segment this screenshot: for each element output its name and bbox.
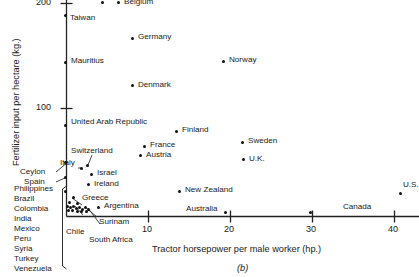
point-label-norway: Norway bbox=[229, 56, 256, 64]
x-tick-label-40: 40 bbox=[388, 225, 398, 234]
data-point-cluster-11 bbox=[76, 210, 79, 213]
data-point-switzerland bbox=[86, 164, 89, 167]
point-label-uar: United Arab Republic bbox=[71, 118, 147, 126]
bracket-item-turkey: Turkey bbox=[14, 255, 38, 263]
data-point-canada bbox=[309, 211, 312, 214]
point-label-france: France bbox=[150, 141, 175, 149]
data-point-argentina bbox=[97, 206, 100, 209]
x-tick-label-20: 20 bbox=[224, 225, 234, 234]
bracket-item-peru: Peru bbox=[14, 235, 31, 243]
point-label-ceylon: Ceylon bbox=[20, 168, 45, 176]
bracket-item-philippines: Philippines bbox=[14, 185, 53, 193]
point-label-finland: Finland bbox=[182, 126, 209, 134]
bracket-item-india: India bbox=[14, 215, 32, 223]
data-point-uar bbox=[64, 124, 67, 127]
point-label-italy: Italy bbox=[60, 159, 75, 167]
data-point-greece-2 bbox=[76, 202, 79, 205]
data-point-uk bbox=[242, 158, 245, 161]
data-point-taiwan bbox=[64, 14, 67, 17]
x-tick-label-30: 30 bbox=[306, 225, 316, 234]
point-label-australia: Australia bbox=[186, 205, 218, 213]
point-label-argentina: Argentina bbox=[104, 202, 139, 210]
data-point-us bbox=[399, 192, 402, 195]
data-point-denmark bbox=[131, 84, 134, 87]
point-label-chile: Chile bbox=[66, 228, 84, 236]
scatter-plot-figure: Belgium Taiwan Germany Norway Mauritius … bbox=[0, 0, 419, 277]
bracket-item-venezuela: Venezuela bbox=[14, 265, 52, 273]
point-label-southafrica: South Africa bbox=[89, 236, 133, 244]
point-label-switzerland: Switzerland bbox=[71, 147, 113, 155]
bracket-item-syria: Syria bbox=[14, 245, 32, 253]
y-axis-title: Fertilizer input per hectare (kg.) bbox=[11, 38, 21, 166]
data-point-spain bbox=[64, 176, 67, 179]
x-tick-label-10: 10 bbox=[142, 225, 152, 234]
point-label-us: U.S. bbox=[403, 181, 419, 189]
data-point-norway bbox=[222, 60, 225, 63]
x-axis-title: Tractor horsepower per male worker (hp.) bbox=[152, 245, 321, 254]
data-point-unlabeled bbox=[101, 1, 104, 4]
bracket-item-colombia: Colombia bbox=[14, 205, 48, 213]
plot-vector-layer bbox=[0, 0, 419, 277]
figure-caption: (b) bbox=[237, 264, 248, 273]
data-point-cluster-13 bbox=[85, 210, 88, 213]
point-label-belgium: Belgium bbox=[124, 0, 153, 6]
y-tick-label-100: 100 bbox=[36, 103, 51, 112]
bracket-item-mexico: Mexico bbox=[14, 225, 40, 233]
data-point-cluster-10 bbox=[71, 209, 74, 212]
point-label-uk: U.K. bbox=[249, 155, 265, 163]
point-label-canada: Canada bbox=[343, 203, 371, 211]
data-point-israel bbox=[90, 173, 93, 176]
data-point-cluster-9 bbox=[67, 209, 70, 212]
y-tick-label-200: 200 bbox=[36, 0, 51, 7]
data-point-cluster-15 bbox=[64, 190, 67, 193]
point-label-sweden: Sweden bbox=[248, 137, 277, 145]
data-point-cluster-12 bbox=[80, 210, 83, 213]
point-label-newzealand: New Zealand bbox=[185, 186, 233, 194]
data-point-mauritius bbox=[64, 61, 67, 64]
data-point-ireland bbox=[87, 183, 90, 186]
point-label-israel: Israel bbox=[97, 169, 117, 177]
point-label-germany: Germany bbox=[138, 33, 171, 41]
data-point-finland bbox=[175, 130, 178, 133]
bracket-item-brazil: Brazil bbox=[14, 195, 34, 203]
data-point-austria bbox=[139, 154, 142, 157]
data-point-germany bbox=[131, 37, 134, 40]
point-label-ireland: Ireland bbox=[94, 180, 119, 188]
point-label-denmark: Denmark bbox=[138, 81, 171, 89]
point-label-taiwan: Taiwan bbox=[70, 14, 95, 22]
data-point-italy bbox=[80, 167, 83, 170]
data-point-belgium bbox=[117, 1, 120, 4]
data-point-cluster-14 bbox=[68, 201, 71, 204]
data-point-australia bbox=[224, 211, 227, 214]
data-point-greece bbox=[72, 196, 75, 199]
point-label-austria: Austria bbox=[146, 151, 171, 159]
data-point-sweden bbox=[241, 141, 244, 144]
data-point-france bbox=[143, 145, 146, 148]
point-label-surinam: Surinam bbox=[99, 218, 129, 226]
data-point-newzealand bbox=[178, 190, 181, 193]
point-label-mauritius: Mauritius bbox=[71, 57, 104, 65]
